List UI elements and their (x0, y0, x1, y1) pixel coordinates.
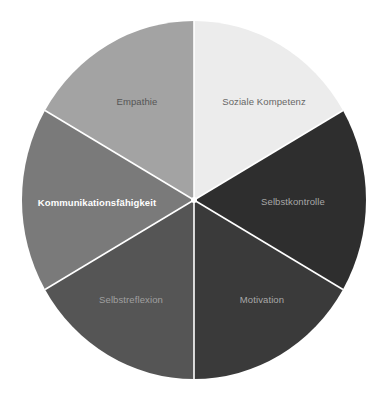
pie-chart: Soziale KompetenzSelbstkontrolleMotivati… (0, 0, 385, 399)
center-dot (191, 197, 197, 203)
slice-label: Kommunikationsfähigkeit (38, 198, 156, 208)
slice-label: Empathie (117, 97, 158, 107)
slice-label: Selbstreflexion (99, 295, 163, 305)
slice-label: Motivation (240, 295, 284, 305)
slice-label: Selbstkontrolle (261, 197, 325, 207)
slice-label: Soziale Kompetenz (222, 97, 306, 107)
